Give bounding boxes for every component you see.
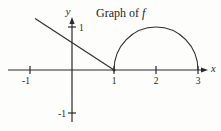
x-tick-label: 2 [154,76,159,86]
function-curves [35,18,198,71]
x-tick-label: 3 [196,76,201,86]
x-tick-label: -1 [22,76,30,86]
y-tick-label: -1 [58,109,66,119]
x-tick-label: 1 [112,76,117,86]
y-axis-ticks: 1-1 [58,23,84,119]
figure-title-function-name: f [142,6,147,20]
figure-title: Graph of f [96,6,147,20]
x-axis-label: x [210,63,216,74]
upper-semicircle-curve [114,27,198,70]
function-graph-figure: -1123 1-1 x y Graph of f [0,0,221,131]
endpoint-dot [113,69,116,72]
y-axis-label: y [65,6,71,17]
figure-svg: -1123 1-1 x y Graph of f [0,0,221,131]
y-tick-label: 1 [79,23,84,33]
x-axis-ticks: -1123 [22,66,201,86]
figure-title-roman: Graph of [96,6,139,20]
line-segment-curve [35,18,114,70]
y-axis-arrowhead-icon [69,17,74,24]
x-axis-arrowhead-icon [201,67,208,72]
